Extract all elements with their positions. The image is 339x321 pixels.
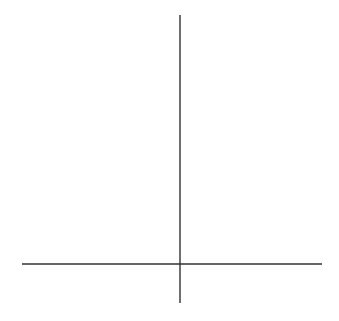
chart — [0, 0, 339, 321]
